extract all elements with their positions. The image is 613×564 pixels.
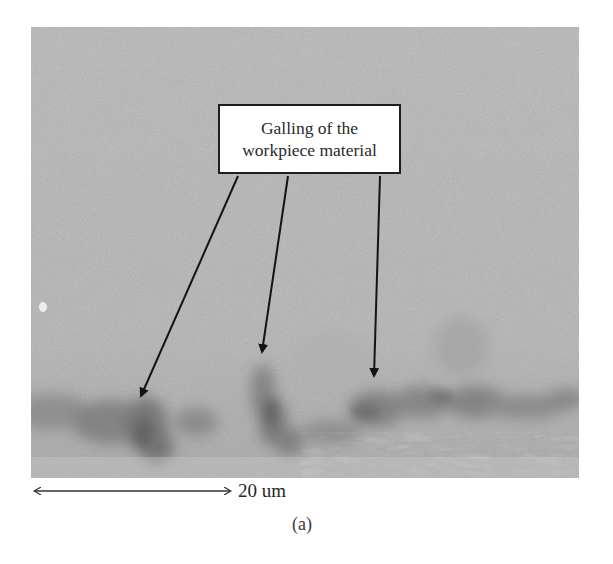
callout-line-1: Galling of the bbox=[261, 117, 358, 139]
callout-line-2: workpiece material bbox=[242, 139, 377, 161]
callout-label-box: Galling of the workpiece material bbox=[218, 104, 401, 174]
panel-label: (a) bbox=[292, 513, 312, 535]
micrograph-image bbox=[31, 27, 579, 478]
figure-panel: Galling of the workpiece material 20 um … bbox=[0, 0, 613, 564]
scale-bar-label: 20 um bbox=[238, 480, 286, 502]
micrograph-texture bbox=[31, 27, 579, 478]
